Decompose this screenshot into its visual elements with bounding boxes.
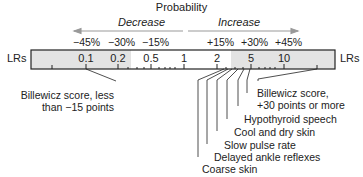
finding-slow-pulse: Slow pulse rate (224, 139, 296, 151)
finding-delayed-reflexes: Delayed ankle reflexes (214, 151, 320, 163)
finding-billewicz-low-line1: Billewicz score, less (19, 89, 114, 101)
pct-plus-30: +30% (241, 36, 268, 48)
finding-billewicz-low-line2: than −15 points (19, 101, 114, 113)
pct-minus-45: −45% (73, 36, 100, 48)
direction-arrows (74, 29, 298, 34)
finding-billewicz-high: Billewicz score, +30 points or more (257, 87, 345, 111)
tick-label-2: 2 (214, 52, 220, 64)
finding-cool-dry-skin: Cool and dry skin (234, 126, 315, 138)
tick-label-1: 1 (181, 52, 187, 64)
axis-label-right: LRs (340, 52, 360, 64)
pct-minus-30: −30% (108, 36, 135, 48)
finding-hypothyroid-speech: Hypothyroid speech (244, 113, 337, 125)
finding-coarse-skin: Coarse skin (202, 163, 257, 175)
tick-label-0-1: 0.1 (78, 52, 93, 64)
axis-label-left: LRs (7, 52, 27, 64)
decrease-label: Decrease (118, 16, 165, 28)
tick-label-0-2: 0.2 (110, 52, 125, 64)
pct-plus-45: +45% (275, 36, 302, 48)
chart-title: Probability (0, 1, 363, 13)
pct-minus-15: −15% (142, 36, 169, 48)
tick-label-0-5: 0.5 (143, 52, 158, 64)
tick-label-5: 5 (248, 52, 254, 64)
finding-billewicz-high-line2: +30 points or more (257, 99, 345, 111)
increase-label: Increase (218, 16, 260, 28)
tick-label-10: 10 (278, 52, 290, 64)
pct-plus-15: +15% (207, 36, 234, 48)
finding-billewicz-high-line1: Billewicz score, (257, 87, 345, 99)
finding-billewicz-low: Billewicz score, less than −15 points (19, 89, 114, 113)
